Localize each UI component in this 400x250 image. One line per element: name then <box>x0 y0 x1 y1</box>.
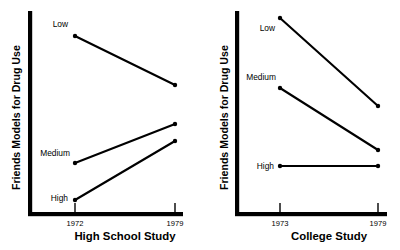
left-panel-series-medium-marker-1972 <box>73 161 77 165</box>
right-panel-series-low-marker-1979 <box>376 104 380 108</box>
left-panel-series-low-marker-1979 <box>173 83 177 87</box>
right-panel-series-medium-marker-1979 <box>376 148 380 152</box>
left-panel-tick-label-1979: 1979 <box>167 219 184 228</box>
right-panel-y-axis-label: Friends Models for Drug Use <box>218 45 230 190</box>
two-panel-line-chart-figure: Friends Models for Drug Use 1972 1979 Hi… <box>0 0 400 250</box>
left-panel-series-low-label: Low <box>53 19 69 29</box>
right-panel-x-axis <box>235 212 387 216</box>
right-panel-tick-label-1979: 1979 <box>370 219 387 228</box>
left-panel-series-low-marker-1972 <box>73 34 77 38</box>
right-panel-series-low-label: Low <box>260 23 276 33</box>
right-panel-series-high-marker-1979 <box>376 164 380 168</box>
left-panel-series-high-label: High <box>51 193 69 203</box>
right-panel-y-axis <box>235 11 239 216</box>
right-panel-series-medium-label: Medium <box>246 72 276 82</box>
left-panel-title: High School Study <box>74 230 176 242</box>
left-panel-y-axis-label: Friends Models for Drug Use <box>10 45 22 190</box>
left-panel-series-medium-label: Medium <box>40 148 70 158</box>
left-panel-series-high-marker-1979 <box>173 139 177 143</box>
chart-canvas: Friends Models for Drug Use 1972 1979 Hi… <box>0 0 400 250</box>
right-panel-series-medium-marker-1973 <box>278 86 282 90</box>
right-panel-tick-label-1973: 1973 <box>272 219 289 228</box>
left-panel-tick-label-1972: 1972 <box>67 219 84 228</box>
right-panel-series-high-marker-1973 <box>278 164 282 168</box>
right-panel-title: College Study <box>291 230 368 242</box>
left-panel-series-medium-marker-1979 <box>173 122 177 126</box>
right-panel-series-high-label: High <box>257 161 275 171</box>
right-panel-series-low-marker-1973 <box>278 16 282 20</box>
left-panel-series-high-marker-1972 <box>73 198 77 202</box>
left-panel-x-axis <box>28 212 183 216</box>
left-panel-y-axis <box>28 11 32 216</box>
